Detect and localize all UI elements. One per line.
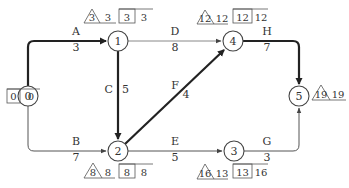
activity-c-duration: 5 (122, 83, 129, 96)
node-0-box2: 0 (28, 91, 34, 102)
activity-a-name: A (71, 25, 81, 38)
activity-b: B 7 (28, 106, 106, 164)
node-5-plain-value: 19 (332, 89, 345, 100)
node-4-box2: 12 (255, 12, 268, 23)
node-2-annotation: 8 8 8 8 (84, 163, 153, 178)
node-0-box1: 0 (10, 91, 16, 102)
node-1-box2: 3 (141, 12, 147, 23)
svg-text:5: 5 (296, 90, 303, 103)
activity-c: C 5 (105, 51, 129, 139)
svg-text:4: 4 (230, 35, 237, 48)
node-5: 5 (289, 86, 309, 106)
node-2-triangle-value: 8 (90, 167, 96, 178)
activity-h-name: H (262, 25, 272, 38)
activity-e: E 5 (128, 135, 222, 164)
node-3-annotation: 16 13 13 16 (197, 164, 268, 179)
node-4-triangle-value: 12 (199, 13, 212, 24)
activity-d: D 8 (128, 25, 221, 54)
node-4-box1: 12 (236, 12, 249, 23)
activity-b-name: B (72, 135, 80, 148)
activity-b-duration: 7 (73, 151, 80, 164)
node-1-box1: 3 (124, 12, 130, 23)
activity-d-duration: 8 (172, 41, 179, 54)
activity-g-duration: 3 (264, 151, 271, 164)
node-2-box2: 8 (141, 167, 147, 178)
svg-text:3: 3 (231, 145, 238, 158)
node-5-annotation: 19 19 (312, 85, 346, 100)
activity-e-name: E (171, 135, 179, 148)
activity-f-duration: 4 (183, 88, 190, 101)
activity-f: F 4 (125, 50, 224, 144)
activity-g: G 3 (244, 108, 299, 164)
activity-h-duration: 7 (264, 41, 271, 54)
activity-c-name: C (105, 83, 113, 96)
node-3-box1: 13 (236, 167, 249, 178)
node-1-plain-value: 3 (105, 12, 111, 23)
svg-text:2: 2 (115, 145, 122, 158)
activity-a: A 3 (28, 25, 106, 86)
activity-g-name: G (263, 135, 272, 148)
node-3-box2: 16 (255, 167, 268, 178)
node-4-plain-value: 12 (216, 13, 229, 24)
node-4: 4 (223, 31, 243, 51)
activity-d-name: D (171, 25, 180, 38)
node-3-triangle-value: 16 (199, 168, 212, 179)
node-2-box1: 8 (124, 167, 130, 178)
node-1: 1 (108, 31, 128, 51)
node-1-triangle-value: 3 (89, 12, 95, 23)
activity-h: H 7 (243, 25, 299, 84)
svg-text:1: 1 (115, 35, 122, 48)
node-4-annotation: 12 12 12 12 (197, 9, 268, 24)
node-3: 3 (224, 141, 244, 161)
activity-e-duration: 5 (172, 151, 179, 164)
node-3-plain-value: 13 (216, 168, 229, 179)
node-2-plain-value: 8 (105, 167, 111, 178)
activity-f-name: F (171, 79, 179, 92)
node-2: 2 (108, 141, 128, 161)
network-diagram: A 3 B 7 C 5 D 8 E 5 F 4 G 3 H 7 (0, 0, 349, 188)
node-1-annotation: 3 3 3 3 (84, 9, 153, 23)
activity-a-duration: 3 (73, 41, 80, 54)
node-5-triangle-value: 19 (315, 89, 328, 100)
